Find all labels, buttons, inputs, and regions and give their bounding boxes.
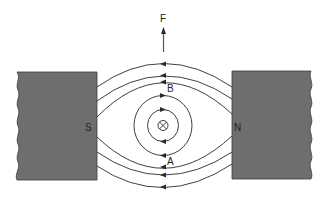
upper-field-arrows	[160, 62, 166, 85]
field-line-upper-2	[97, 76, 232, 101]
arrow-left-icon	[160, 73, 166, 78]
arrow-right-icon	[160, 93, 166, 98]
conductor-cross-icon	[158, 121, 168, 131]
arrow-left-icon	[160, 153, 166, 158]
arrow-left-icon	[160, 139, 166, 144]
arrow-right-icon	[160, 107, 166, 112]
force-label: F	[160, 13, 166, 24]
arrow-left-icon	[160, 173, 166, 178]
arrow-left-icon	[160, 80, 166, 85]
lower-field-lines	[97, 136, 232, 188]
arrow-left-icon	[160, 62, 166, 67]
arrow-left-icon	[160, 165, 166, 170]
south-pole-label: S	[85, 122, 92, 133]
point-a-label: A	[167, 156, 174, 167]
north-pole-label: N	[234, 122, 241, 133]
force-arrow	[161, 27, 166, 52]
point-b-label: B	[167, 83, 174, 94]
north-magnet	[232, 71, 312, 179]
magnetic-field-diagram: F B A S N	[0, 0, 328, 200]
arrow-up-icon	[161, 27, 166, 34]
arrow-left-icon	[160, 185, 166, 190]
